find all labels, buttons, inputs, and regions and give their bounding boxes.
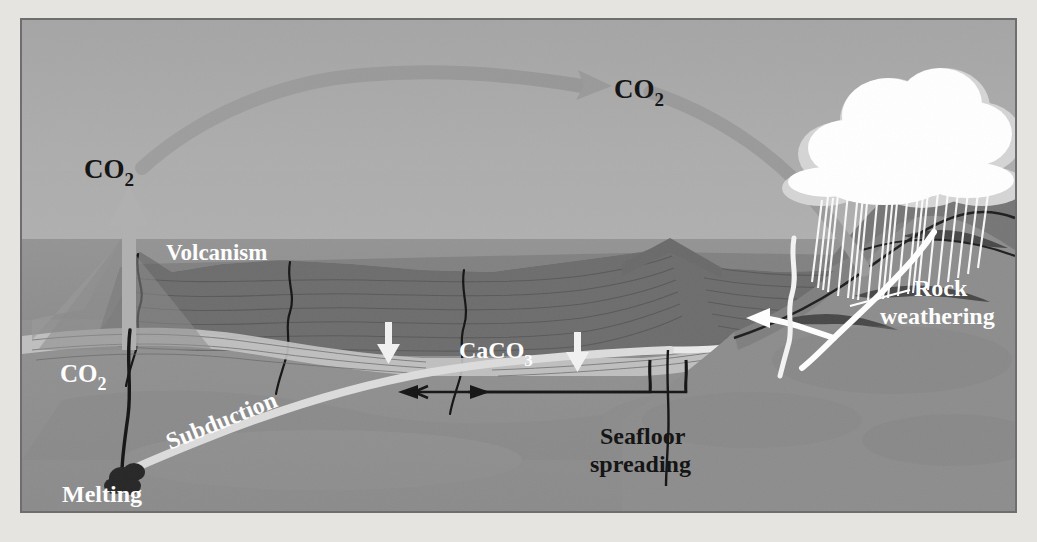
paper-grain (22, 20, 1015, 511)
carbon-cycle-illustration: CO2 CO2 Volcanism CO2 CaCO3 Subduction (22, 20, 1015, 511)
diagram-panel: CO2 CO2 Volcanism CO2 CaCO3 Subduction (20, 18, 1017, 513)
figure-page: CO2 CO2 Volcanism CO2 CaCO3 Subduction (0, 0, 1037, 542)
